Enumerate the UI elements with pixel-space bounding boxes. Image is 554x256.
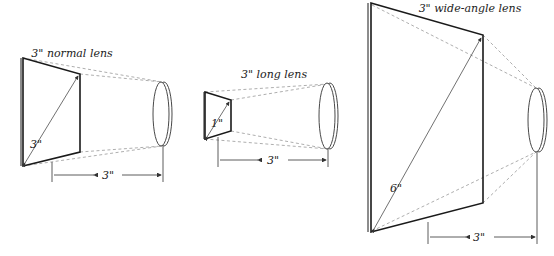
panel-title: 3" normal lens [31, 47, 113, 60]
distance-label: 3" [473, 231, 485, 244]
diagonal-label: 6" [390, 182, 402, 195]
diagonal-label: 1" [211, 117, 223, 130]
panel-title: 3" long lens [241, 68, 307, 81]
distance-label: 3" [267, 154, 279, 167]
panel-title: 3" wide-angle lens [419, 2, 522, 15]
diagonal-label: 3" [30, 138, 42, 151]
normal-lens-panel: 3" normal lens 3" 3" [21, 47, 172, 182]
image-frame [368, 3, 536, 232]
lens-icon [153, 82, 172, 146]
long-lens-panel: 3" long lens 1" 3" [204, 68, 338, 167]
wide-angle-lens-panel: 3" wide-angle lens 6" 3" [368, 2, 547, 244]
lens-icon [319, 83, 338, 149]
lens-icon [528, 88, 547, 152]
lens-comparison-diagram: 3" normal lens 3" 3" 3" long lens 1" 3" [0, 0, 554, 256]
distance-label: 3" [102, 169, 114, 182]
image-frame [21, 58, 162, 166]
